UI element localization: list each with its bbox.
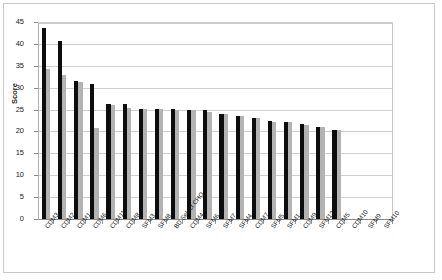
bar-category [54, 23, 70, 220]
y-tick-label: 40 [0, 40, 24, 48]
x-label-cell: SFM7 [216, 224, 232, 280]
y-tick-label: 15 [0, 149, 24, 157]
bar-category [345, 23, 361, 220]
bar [46, 69, 50, 220]
x-label-cell: SFM5 [264, 224, 280, 280]
x-label-cell: CDM9 [296, 224, 312, 280]
bar-category [296, 23, 312, 220]
bar-category [199, 23, 215, 220]
bar [143, 109, 147, 220]
bar-category [232, 23, 248, 220]
bar-category [329, 23, 345, 220]
bar [320, 127, 324, 220]
plot-area [38, 23, 393, 220]
x-label-cell: CDM11 [103, 224, 119, 280]
bar-category [38, 23, 54, 220]
bar [240, 116, 244, 220]
y-tick-label: 25 [0, 106, 24, 114]
bar [224, 114, 228, 220]
x-label-cell: SFM6 [199, 224, 215, 280]
bar [175, 110, 179, 220]
bar [272, 122, 276, 221]
bar-category [361, 23, 377, 220]
x-label-cell: CDM10 [345, 224, 361, 280]
bar [94, 128, 98, 220]
x-label-cell: CDM7 [248, 224, 264, 280]
x-label-cell: CDM8 [119, 224, 135, 280]
x-label-cell: SFM3 [135, 224, 151, 280]
bar-category [86, 23, 102, 220]
bar-category [377, 23, 393, 220]
bar [207, 112, 211, 220]
y-tick-label: 35 [0, 62, 24, 70]
bar-category [103, 23, 119, 220]
bar-group [38, 23, 393, 220]
x-label-cell: SFM12 [312, 224, 328, 280]
y-tick-label: 30 [0, 84, 24, 92]
bar-category [151, 23, 167, 220]
bar [304, 125, 308, 220]
x-label-cell: BD Select CHO [167, 224, 183, 280]
bar-category [280, 23, 296, 220]
bar [127, 108, 131, 220]
y-tick-label: 0 [0, 215, 24, 223]
x-label-cell: CDM6 [86, 224, 102, 280]
bar [256, 118, 260, 220]
x-label-cell: CDM2 [54, 224, 70, 280]
bar-category [135, 23, 151, 220]
bar-category [312, 23, 328, 220]
x-label-cell: SFM9 [361, 224, 377, 280]
x-label-cell: CDM5 [329, 224, 345, 280]
y-tick-label: 45 [0, 18, 24, 26]
x-label-cell: CDM3 [38, 224, 54, 280]
bar [288, 122, 292, 220]
x-axis-labels: CDM3CDM2CDM1CDM6CDM11CDM8SFM3SFM8BD Sele… [38, 224, 393, 280]
bar-category [167, 23, 183, 220]
x-label-cell: SFM8 [151, 224, 167, 280]
bar-category [248, 23, 264, 220]
x-label-cell: SFM1 [280, 224, 296, 280]
bar-category [183, 23, 199, 220]
y-tick-label: 20 [0, 127, 24, 135]
bar [337, 130, 341, 220]
bar [62, 75, 66, 220]
bar [78, 82, 82, 220]
y-tick-label: 5 [0, 193, 24, 201]
bar-category [70, 23, 86, 220]
chart-container: Score 051015202530354045 CDM3CDM2CDM1CDM… [3, 3, 435, 273]
bar [159, 109, 163, 220]
x-label-cell: SFM4 [232, 224, 248, 280]
x-label-cell: CDM4 [183, 224, 199, 280]
bar [111, 105, 115, 220]
x-label-cell: CDM1 [70, 224, 86, 280]
y-tick-label: 10 [0, 171, 24, 179]
bar-category [216, 23, 232, 220]
bar-category [264, 23, 280, 220]
bar-category [119, 23, 135, 220]
x-label-cell: SFM10 [377, 224, 393, 280]
